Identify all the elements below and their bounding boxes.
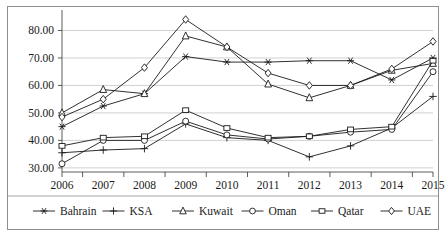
marker-diamond [265, 69, 271, 77]
chart-canvas: 30.0040.0050.0060.0070.0080.00 200620072… [0, 0, 446, 236]
legend-item-bahrain[interactable]: Bahrain [33, 205, 97, 217]
marker-square [306, 134, 312, 139]
series-qatar [59, 58, 436, 148]
marker-star [265, 59, 272, 65]
marker-square [430, 58, 436, 63]
legend-label: KSA [130, 205, 154, 217]
legend-label: Oman [269, 205, 297, 217]
x-tick-label: 2010 [215, 179, 238, 191]
y-tick-label: 80.00 [28, 24, 54, 36]
legend-item-ksa[interactable]: KSA [103, 205, 154, 217]
axes [58, 10, 433, 177]
x-tick-label: 2009 [174, 179, 197, 191]
x-tick-label: 2015 [422, 179, 445, 191]
marker-diamond [100, 95, 106, 103]
legend-item-qatar[interactable]: Qatar [311, 205, 364, 217]
marker-plus [58, 149, 66, 157]
y-tick-label: 40.00 [28, 134, 54, 146]
marker-plus [110, 207, 117, 214]
marker-star [347, 58, 354, 64]
marker-square [59, 144, 65, 149]
marker-diamond [430, 38, 436, 46]
marker-circle [183, 118, 189, 124]
legend-label: Qatar [338, 205, 364, 217]
legend-label: UAE [408, 205, 432, 217]
y-axis-tick-labels: 30.0040.0050.0060.0070.0080.00 [28, 24, 54, 173]
chart-legend: BahrainKSAKuwaitOmanQatarUAE [8, 196, 438, 217]
marker-triangle [265, 80, 272, 87]
series-oman [59, 69, 436, 167]
x-tick-label: 2012 [298, 179, 321, 191]
x-tick-label: 2007 [92, 179, 115, 191]
marker-star [41, 208, 48, 214]
x-tick-label: 2006 [51, 179, 74, 191]
y-tick-label: 60.00 [28, 79, 54, 91]
marker-star [306, 58, 313, 64]
legend-label: Bahrain [60, 205, 97, 217]
legend-item-kuwait[interactable]: Kuwait [172, 205, 234, 217]
y-tick-label: 70.00 [28, 52, 54, 64]
marker-plus [99, 146, 107, 154]
y-tick-label: 30.00 [28, 162, 54, 174]
marker-circle [430, 69, 436, 75]
marker-circle [224, 132, 230, 138]
marker-plus [306, 153, 314, 161]
marker-diamond [389, 207, 395, 214]
marker-triangle [182, 32, 189, 39]
gridlines [62, 30, 433, 167]
y-tick-label: 50.00 [28, 107, 54, 119]
marker-square [319, 209, 325, 214]
marker-plus [347, 142, 355, 150]
marker-circle [59, 161, 65, 167]
x-tick-label: 2008 [133, 179, 156, 191]
marker-plus [429, 93, 437, 101]
x-axis-tick-labels: 2006200720082009201020112012201320142015 [51, 179, 445, 191]
marker-square [224, 126, 230, 131]
marker-square [265, 135, 271, 140]
marker-square [183, 108, 189, 113]
marker-star [100, 103, 107, 109]
marker-square [100, 135, 106, 140]
marker-square [348, 127, 354, 132]
marker-square [389, 124, 395, 129]
marker-plus [141, 145, 149, 153]
legend-label: Kuwait [199, 205, 234, 217]
x-tick-label: 2013 [339, 179, 362, 191]
x-tick-label: 2011 [257, 179, 280, 191]
series-line [62, 96, 433, 156]
series-line [62, 20, 433, 118]
legend-item-oman[interactable]: Oman [242, 205, 297, 217]
marker-star [388, 77, 395, 83]
data-series-group [58, 16, 437, 167]
marker-diamond [306, 82, 312, 90]
legend-item-uae[interactable]: UAE [381, 205, 432, 217]
marker-triangle [180, 207, 186, 214]
series-uae [59, 16, 436, 121]
marker-star [223, 59, 230, 65]
x-tick-label: 2014 [380, 179, 403, 191]
marker-circle [250, 208, 256, 214]
marker-triangle [100, 86, 107, 93]
marker-square [141, 134, 147, 139]
series-line [62, 57, 433, 127]
line-chart-figure: 30.0040.0050.0060.0070.0080.00 200620072… [0, 0, 446, 236]
